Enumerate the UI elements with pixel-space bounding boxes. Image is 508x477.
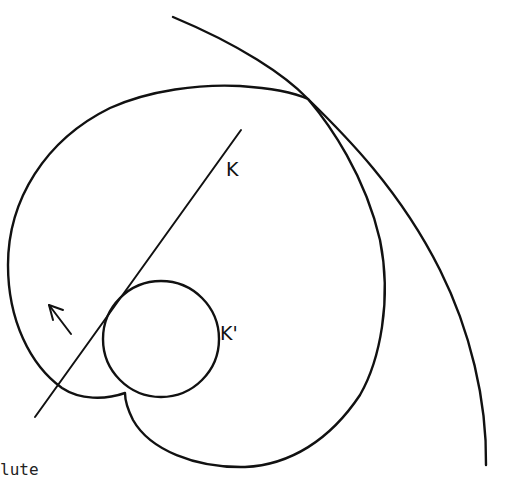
label-k-prime: K'	[220, 324, 238, 343]
caption-fragment: lute	[0, 462, 39, 477]
diagram-canvas	[0, 0, 508, 477]
main-curve	[8, 86, 385, 467]
arrow-icon	[49, 305, 71, 334]
outer-arc	[173, 17, 486, 465]
line-k	[35, 130, 241, 417]
label-k: K	[226, 160, 238, 179]
